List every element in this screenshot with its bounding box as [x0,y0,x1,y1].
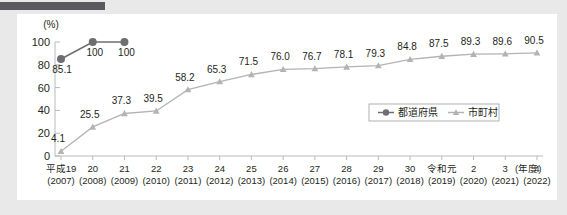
legend-marker-都道府県 [383,109,389,115]
x-tick-sublabel: (2007) [47,175,74,186]
data-point-label: 79.3 [366,48,386,59]
x-tick-sublabel: (2016) [333,175,360,186]
chart-card: (%)020406080100平成19(2007)20(2008)21(2009… [17,14,557,200]
data-point-label: 90.5 [524,35,544,46]
data-point-label: 76.7 [302,51,322,62]
x-tick-sublabel: (2011) [175,175,202,186]
y-tick-label: 80 [38,59,50,71]
data-point-marker [89,38,97,46]
y-tick-label: 40 [38,104,50,116]
series-line-市町村 [61,53,537,151]
x-tick-sublabel: (2009) [111,175,138,186]
x-tick-sublabel: (2021) [492,175,519,186]
data-point-label: 78.1 [334,49,354,60]
x-tick-label: 22 [151,163,162,174]
x-tick-label: 24 [214,163,225,174]
x-tick-sublabel: (2017) [365,175,392,186]
legend-label-都道府県: 都道府県 [398,106,438,118]
legend-label-市町村: 市町村 [468,106,498,118]
y-tick-label: 20 [38,127,50,139]
data-point-label: 100 [86,47,103,58]
x-tick-sublabel: (2014) [269,175,296,186]
x-tick-label: 23 [183,163,194,174]
data-point-label: 25.5 [80,109,100,120]
x-tick-sublabel: (2015) [301,175,328,186]
x-tick-sublabel: (2010) [142,175,169,186]
x-tick-sublabel: (2018) [396,175,423,186]
x-tick-label: 27 [310,163,321,174]
x-tick-label: 3 [503,163,508,174]
x-tick-label: 29 [373,163,384,174]
data-point-marker [120,38,128,46]
x-tick-sublabel: (2012) [206,175,233,186]
data-point-label: 100 [118,47,135,58]
x-tick-label: 26 [278,163,289,174]
data-point-label: 87.5 [429,38,449,49]
data-point-marker [57,55,65,63]
y-tick-label: 100 [32,36,50,48]
y-axis-unit-label: (%) [43,19,59,30]
x-tick-sublabel: (2022) [523,175,550,186]
x-tick-sublabel: (2020) [460,175,487,186]
data-point-label: 76.0 [270,51,290,62]
data-point-label: 65.3 [207,64,227,75]
data-point-label: 58.2 [175,72,195,83]
data-point-label: 89.6 [493,36,513,47]
x-tick-label: 2 [471,163,476,174]
x-tick-label: 30 [405,163,416,174]
data-point-label: 4.1 [51,133,65,144]
x-tick-label: 28 [341,163,352,174]
x-tick-label: 21 [119,163,130,174]
x-tick-sublabel: (2019) [428,175,455,186]
data-point-label: 84.8 [397,41,417,52]
y-tick-label: 60 [38,82,50,94]
line-chart: (%)020406080100平成19(2007)20(2008)21(2009… [17,14,557,200]
x-tick-label: 平成19 [46,163,77,174]
data-point-label: 71.5 [239,56,259,67]
data-point-label: 39.5 [143,93,163,104]
header-accent-bar [0,2,105,10]
x-tick-label: 令和元 [427,163,457,174]
x-tick-sublabel: (2008) [79,175,106,186]
x-axis-unit-label: (年度) [515,163,541,174]
x-tick-label: 25 [246,163,257,174]
data-point-label: 37.3 [112,95,132,106]
chart-plot-area: (%)020406080100平成19(2007)20(2008)21(2009… [17,14,557,200]
x-tick-label: 20 [87,163,98,174]
data-point-label: 89.3 [461,36,481,47]
x-tick-sublabel: (2013) [238,175,265,186]
data-point-label: 85.1 [52,64,72,75]
y-tick-label: 0 [44,150,50,162]
